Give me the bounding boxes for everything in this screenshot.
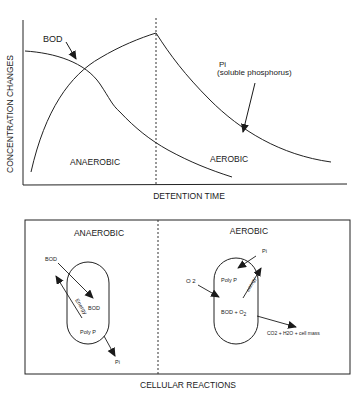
- aerobic-pi-in-label: Pi: [262, 248, 267, 254]
- anaerobic-energy-label: Energy: [74, 297, 88, 315]
- concentration-chart: BOD Pi (soluble phosphorus) ANAEROBIC AE…: [5, 18, 347, 201]
- aerobic-cell: [214, 258, 258, 344]
- aerobic-bod-o2-label: BOD + O2: [221, 309, 246, 317]
- bod-o2-text: BOD + O: [221, 309, 244, 315]
- y-axis-label: CONCENTRATION CHANGES: [5, 55, 15, 173]
- anaerobic-bod-inside-label: BOD: [88, 305, 100, 311]
- aerobic-energy-label: energy: [245, 276, 258, 293]
- anaerobic-bod-in-label: BOD: [45, 256, 57, 262]
- aerobic-o2-label: O 2: [186, 278, 196, 284]
- reactions-caption: CELLULAR REACTIONS: [140, 380, 236, 390]
- pi-curve-sublabel: (soluble phosphorus): [217, 68, 292, 77]
- aerobic-region-label: AEROBIC: [210, 154, 248, 164]
- x-axis-label: DETENTION TIME: [153, 191, 225, 201]
- bod-uptake-arrow: [58, 263, 93, 298]
- oxygen-uptake-arrow: [198, 285, 219, 297]
- reactions-frame: [25, 220, 350, 374]
- bod-curve: [25, 51, 232, 177]
- aerobic-heading: AEROBIC: [230, 226, 268, 236]
- anaerobic-cell-panel: ANAEROBIC BOD BOD Energy Poly P Pi: [45, 228, 124, 365]
- pi-curve: [31, 33, 331, 172]
- diagram-canvas: BOD Pi (soluble phosphorus) ANAEROBIC AE…: [0, 0, 360, 395]
- products-arrow: [257, 316, 296, 327]
- pi-release-arrow: [104, 336, 115, 356]
- bod-label-arrow: [66, 42, 76, 59]
- aerobic-polyp-label: Poly P: [221, 277, 237, 283]
- aerobic-cell-panel: AEROBIC Pi Poly P energy O 2 BOD + O2 CO…: [186, 226, 320, 344]
- x-axis: [23, 184, 347, 185]
- anaerobic-polyp-label: Poly P: [80, 329, 96, 335]
- anaerobic-region-label: ANAEROBIC: [70, 157, 120, 167]
- cellular-reactions-diagram: ANAEROBIC BOD BOD Energy Poly P Pi AEROB…: [25, 220, 350, 390]
- anaerobic-heading: ANAEROBIC: [74, 228, 124, 238]
- aerobic-products-label: CO2 + H2O + cell mass: [267, 330, 320, 336]
- o2-subscript: 2: [243, 311, 246, 317]
- bod-curve-label: BOD: [43, 34, 63, 44]
- anaerobic-pi-out-label: Pi: [115, 359, 120, 365]
- pi-label-arrow: [243, 83, 255, 132]
